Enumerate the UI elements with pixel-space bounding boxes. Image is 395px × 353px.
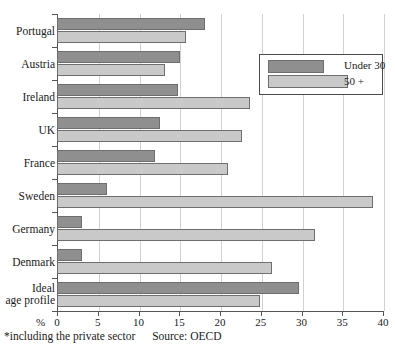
category-label-line1: Sweden [0,190,55,202]
category-label-denmark: Denmark [0,256,55,268]
category-label-sweden: Sweden [0,190,55,202]
x-tick-label-40: 40 [368,316,395,328]
bar-portugal-under-30 [57,18,205,31]
footnote: *including the private sector Source: OE… [4,330,221,342]
legend-label-50-plus: 50 + [344,75,364,87]
y-tick-end [52,311,57,312]
percent-axis-label: % [36,316,45,328]
y-tick-2 [52,80,57,81]
bar-ideal-age-profile-under-30 [57,282,299,295]
x-tick-label-15: 15 [164,316,194,328]
legend-swatch-under-30 [268,60,324,73]
legend-swatch-50-plus [268,75,348,88]
footnote-note: *including the private sector [4,330,135,342]
bar-ireland-50- [57,97,250,110]
category-label-line1: Denmark [0,256,55,268]
bar-ideal-age-profile-50- [57,295,260,308]
category-label-austria: Austria [0,58,55,70]
y-tick-6 [52,212,57,213]
bar-chart: 0510152025303540 % PortugalAustriaIrelan… [0,0,395,353]
bar-ireland-under-30 [57,84,178,97]
bar-germany-50- [57,229,315,242]
bar-austria-50- [57,64,165,77]
footnote-source: Source: OECD [152,330,221,342]
y-tick-4 [52,146,57,147]
bar-austria-under-30 [57,51,180,64]
y-tick-3 [52,113,57,114]
category-label-line1: UK [0,124,55,136]
y-tick-1 [52,47,57,48]
bar-denmark-under-30 [57,249,82,262]
bar-sweden-50- [57,196,373,209]
bar-portugal-50- [57,31,186,44]
x-tick-label-25: 25 [246,316,276,328]
bar-germany-under-30 [57,216,82,229]
category-label-germany: Germany [0,223,55,235]
category-label-ireland: Ireland [0,91,55,103]
category-label-line1: Portugal [0,25,55,37]
legend: Under 30 50 + [259,54,383,95]
bar-france-under-30 [57,150,155,163]
x-tick-label-35: 35 [327,316,357,328]
category-label-uk: UK [0,124,55,136]
bar-denmark-50- [57,262,272,275]
y-tick-5 [52,179,57,180]
category-label-line1: Ireland [0,91,55,103]
x-tick-label-30: 30 [287,316,317,328]
legend-label-under-30: Under 30 [344,59,385,71]
category-label-line1: Germany [0,223,55,235]
category-label-france: France [0,157,55,169]
bar-sweden-under-30 [57,183,107,196]
category-label-line1: Ideal [0,282,55,294]
category-label-line2: age profile [0,294,55,306]
bar-france-50- [57,163,228,176]
bar-uk-under-30 [57,117,160,130]
x-tick-label-5: 5 [83,316,113,328]
category-label-line1: Austria [0,58,55,70]
bar-uk-50- [57,130,242,143]
category-label-line1: France [0,157,55,169]
x-tick-label-0: 0 [42,316,72,328]
category-label-portugal: Portugal [0,25,55,37]
category-label-ideal-age-profile: Idealage profile [0,282,55,306]
y-tick-7 [52,245,57,246]
y-tick-0 [52,14,57,15]
y-tick-8 [52,278,57,279]
x-tick-label-10: 10 [124,316,154,328]
x-tick-label-20: 20 [205,316,235,328]
